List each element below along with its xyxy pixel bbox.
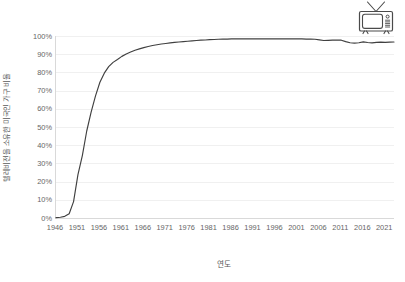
y-axis-tick-label: 30% bbox=[18, 159, 52, 168]
x-axis-tick-label: 1971 bbox=[156, 222, 172, 233]
y-axis-tick-label: 60% bbox=[18, 104, 52, 113]
y-axis-tick-label: 70% bbox=[18, 86, 52, 95]
x-axis-tick-label: 2001 bbox=[288, 222, 304, 233]
x-axis-title: 연도 bbox=[55, 258, 393, 269]
television-icon bbox=[353, 1, 399, 35]
x-axis-tick-label: 1966 bbox=[135, 222, 151, 233]
y-axis-tick-label: 90% bbox=[18, 50, 52, 59]
x-axis-tick-label: 1986 bbox=[222, 222, 238, 233]
x-axis-tick-label: 2021 bbox=[376, 222, 392, 233]
y-axis-tick-label: 80% bbox=[18, 68, 52, 77]
y-axis-tick-label: 10% bbox=[18, 195, 52, 204]
y-axis-tick-label: 20% bbox=[18, 177, 52, 186]
y-axis-tick-label: 50% bbox=[18, 123, 52, 132]
y-axis-tick-label: 40% bbox=[18, 141, 52, 150]
plot-area bbox=[55, 36, 394, 219]
y-axis-tick-label: 100% bbox=[18, 32, 52, 41]
x-axis-tick-label: 2006 bbox=[310, 222, 326, 233]
x-axis-tick-label: 1956 bbox=[91, 222, 107, 233]
y-axis-tick-labels: 0%10%20%30%40%50%60%70%80%90%100% bbox=[18, 30, 52, 220]
x-axis-tick-label: 1996 bbox=[266, 222, 282, 233]
x-axis-tick-label: 1976 bbox=[178, 222, 194, 233]
x-axis-tick-labels: 1946195119561961196619711976198119861991… bbox=[55, 222, 395, 236]
x-axis-tick-label: 1981 bbox=[200, 222, 216, 233]
chart-container: 텔레비전을 소유한 미국인 가구 비율 0%10%20%30%40%50%60%… bbox=[0, 0, 405, 282]
x-axis-tick-label: 1991 bbox=[244, 222, 260, 233]
x-axis-tick-label: 2011 bbox=[332, 222, 348, 233]
x-axis-tick-label: 2016 bbox=[354, 222, 370, 233]
x-axis-tick-label: 1961 bbox=[113, 222, 129, 233]
line-series bbox=[56, 36, 394, 218]
x-axis-tick-label: 1951 bbox=[69, 222, 85, 233]
x-axis-tick-label: 1946 bbox=[47, 222, 63, 233]
y-axis-title: 텔레비전을 소유한 미국인 가구 비율 bbox=[0, 36, 14, 219]
